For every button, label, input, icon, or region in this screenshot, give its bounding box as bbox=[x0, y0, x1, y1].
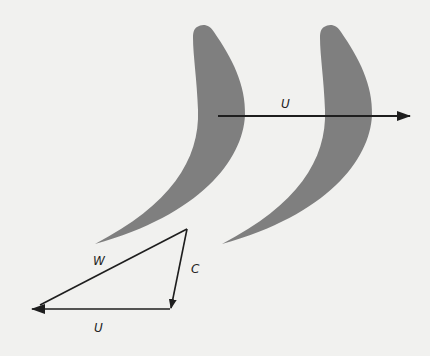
vector-c bbox=[171, 229, 187, 308]
blade-1 bbox=[95, 25, 245, 244]
blade-2 bbox=[222, 25, 372, 244]
diagram-canvas: U W C U bbox=[0, 0, 430, 356]
label-u-top: U bbox=[281, 97, 290, 111]
velocity-triangle: W C U bbox=[32, 229, 200, 335]
label-u-bottom: U bbox=[94, 321, 103, 335]
blade-velocity-arrow: U bbox=[218, 97, 410, 116]
label-w: W bbox=[93, 254, 106, 268]
label-c: C bbox=[191, 262, 200, 276]
vector-w bbox=[40, 229, 187, 305]
